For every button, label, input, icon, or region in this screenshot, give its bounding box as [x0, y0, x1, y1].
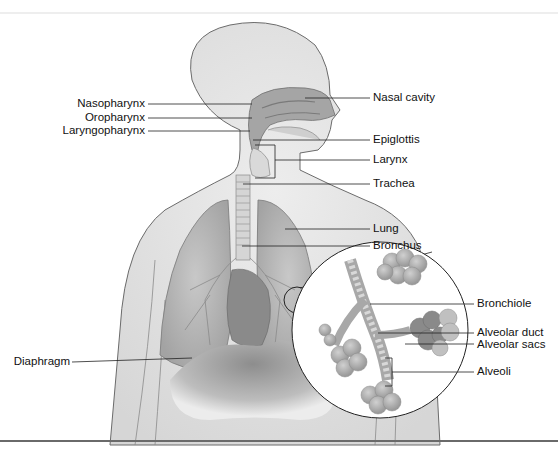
label-nasopharynx: Nasopharynx [40, 97, 145, 110]
anatomy-illustration [0, 0, 558, 453]
label-trachea: Trachea [373, 177, 415, 190]
label-alveolar-sacs: Alveolar sacs [477, 338, 545, 351]
label-oropharynx: Oropharynx [40, 111, 145, 124]
label-epiglottis: Epiglottis [373, 133, 420, 146]
respiratory-diagram: Nasopharynx Oropharynx Laryngopharynx Di… [0, 0, 558, 453]
alveoli-inset [292, 242, 468, 418]
label-lung: Lung [373, 222, 399, 235]
label-bronchiole: Bronchiole [477, 297, 531, 310]
bottom-divider [0, 440, 558, 442]
trachea-illustration [236, 175, 250, 260]
label-laryngopharynx: Laryngopharynx [40, 124, 145, 137]
label-larynx: Larynx [373, 153, 408, 166]
label-diaphragm: Diaphragm [0, 355, 70, 368]
label-alveoli: Alveoli [477, 365, 511, 378]
label-bronchus: Bronchus [373, 239, 422, 252]
label-nasal-cavity: Nasal cavity [373, 91, 435, 104]
